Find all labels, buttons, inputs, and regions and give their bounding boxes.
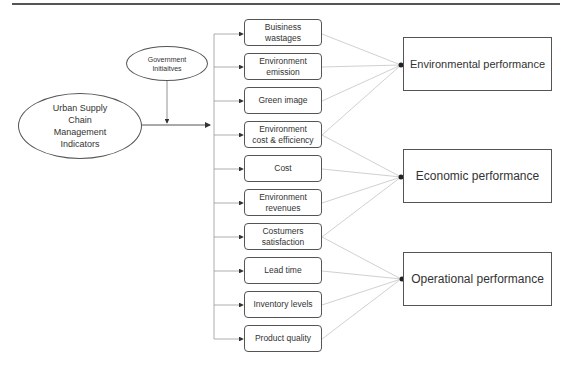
outcome-label: Economic performance [416,169,539,183]
outcome-environmental-performance: Environmental performance [403,37,552,91]
indicator-box: Environment revenues [244,189,322,216]
indicator-box: Green image [244,87,322,114]
indicator-label: Cost [274,163,291,174]
indicator-label: Environment emission [259,56,307,78]
indicator-box: Buisiness wastages [244,19,322,46]
indicator-label: Lead time [264,265,301,276]
indicator-label: Environment cost & efficiency [252,124,313,146]
indicator-label: Product quality [255,333,311,344]
indicator-box: Costumers satisfaction [244,223,322,250]
indicator-box: Inventory levels [244,291,322,318]
moderator-node-label: Government Initiaitves [148,55,187,73]
indicator-box: Cost [244,155,322,182]
indicator-label: Buisiness wastages [265,22,301,44]
moderator-node-government: Government Initiaitves [126,46,208,81]
source-node-label: Urban Supply Chain Management Indicators [53,102,108,150]
source-node-urban-supply-chain: Urban Supply Chain Management Indicators [18,93,142,159]
indicator-label: Green image [258,95,307,106]
indicator-box: Environment emission [244,53,322,80]
indicator-label: Environment revenues [259,192,307,214]
indicator-box: Lead time [244,257,322,284]
outcome-label: Environmental performance [410,58,545,70]
indicator-label: Costumers satisfaction [262,226,305,248]
outcome-operational-performance: Operational performance [403,252,552,306]
outcome-economic-performance: Economic performance [403,149,552,203]
outcome-label: Operational performance [411,272,544,286]
indicator-box: Environment cost & efficiency [244,121,322,148]
indicator-box: Product quality [244,325,322,352]
indicator-label: Inventory levels [253,299,312,310]
